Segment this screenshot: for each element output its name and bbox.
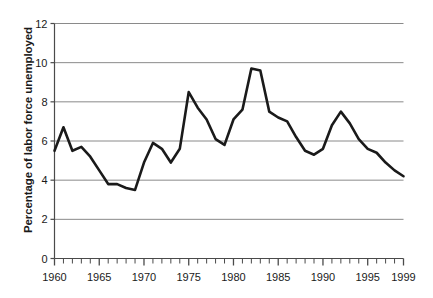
y-tick-label-0: 0: [41, 253, 47, 265]
x-tick-label-1999: 1999: [391, 271, 415, 283]
gridlines-group: [55, 24, 404, 220]
x-tick-label-1970: 1970: [132, 271, 156, 283]
x-tick-label-1980: 1980: [221, 271, 245, 283]
y-tick-label-10: 10: [35, 57, 47, 69]
x-tick-label-1975: 1975: [176, 271, 200, 283]
x-axis-group: 196019651970197519801985199019951999: [42, 259, 415, 283]
x-tick-label-1965: 1965: [87, 271, 111, 283]
x-tick-label-1990: 1990: [311, 271, 335, 283]
unemployment-series-line: [55, 69, 404, 190]
y-tick-label-8: 8: [41, 96, 47, 108]
unemployment-line-chart: Percentage of labor force unemployed 024…: [0, 0, 433, 298]
y-tick-label-12: 12: [35, 18, 47, 30]
x-tick-label-1960: 1960: [42, 271, 66, 283]
x-tick-label-1985: 1985: [266, 271, 290, 283]
chart-plot-area: 024681012 196019651970197519801985199019…: [0, 0, 433, 298]
y-tick-label-4: 4: [41, 174, 47, 186]
y-tick-label-2: 2: [41, 213, 47, 225]
x-tick-label-1995: 1995: [355, 271, 379, 283]
y-tick-label-6: 6: [41, 135, 47, 147]
y-axis-group: 024681012: [35, 18, 54, 265]
data-series-group: [55, 69, 404, 190]
